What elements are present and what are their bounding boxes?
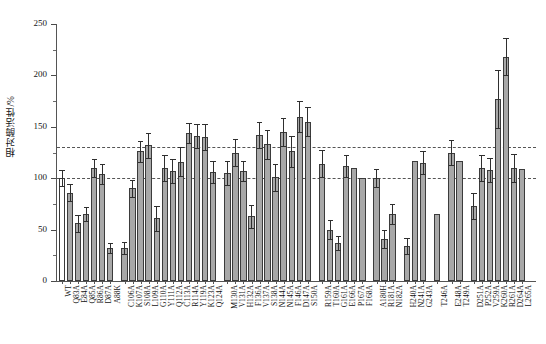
bar [456, 161, 462, 281]
x-axis-tick-mark [498, 281, 499, 284]
error-bar-cap [84, 221, 89, 222]
error-bar [132, 180, 133, 196]
x-axis-tick-mark [197, 281, 198, 284]
error-bar [291, 136, 292, 167]
bar [351, 168, 357, 281]
error-bar [267, 130, 268, 159]
bar [67, 193, 73, 281]
bar [511, 168, 517, 281]
error-bar-cap [84, 207, 89, 208]
error-bar-cap [297, 101, 302, 102]
x-axis-tick-mark [260, 281, 261, 284]
y-axis-tick-label: 100 [34, 172, 48, 183]
error-bar-cap [249, 228, 254, 229]
x-axis-tick-mark [514, 281, 515, 284]
error-bar [407, 238, 408, 254]
x-axis-tick-mark [308, 281, 309, 284]
bar-group [66, 24, 74, 281]
error-bar-cap [108, 253, 113, 254]
plot-area [57, 24, 536, 281]
x-axis-tick-mark [181, 281, 182, 284]
bar [359, 178, 365, 281]
bar-group [486, 24, 494, 281]
error-bar-cap [178, 176, 183, 177]
error-bar-cap [344, 177, 349, 178]
x-axis-tick-mark [284, 281, 285, 284]
bar-group [223, 24, 231, 281]
error-bar-cap [479, 155, 484, 156]
error-bar-cap [130, 197, 135, 198]
bar-group [518, 24, 526, 281]
bar [434, 214, 440, 281]
error-bar-cap [100, 184, 105, 185]
error-bar-cap [122, 242, 127, 243]
error-bar-cap [374, 187, 379, 188]
x-axis-tick-mark [322, 281, 323, 284]
error-bar-cap [281, 146, 286, 147]
error-bar-cap [471, 193, 476, 194]
error-bar-cap [92, 177, 97, 178]
bar-group [239, 24, 247, 281]
error-bar-cap [390, 224, 395, 225]
error-bar-cap [154, 231, 159, 232]
error-bar-cap [225, 185, 230, 186]
error-bar [299, 101, 300, 132]
error-bar [275, 164, 276, 191]
error-bar-cap [374, 169, 379, 170]
error-bar [78, 215, 79, 231]
bar [503, 57, 509, 281]
x-axis-tick-mark [362, 281, 363, 284]
bar-group [145, 24, 153, 281]
bar-group [350, 24, 358, 281]
x-axis-tick-mark [292, 281, 293, 284]
error-bar [235, 139, 236, 166]
error-bar-cap [138, 141, 143, 142]
error-bar [384, 230, 385, 249]
x-axis-tick-mark [70, 281, 71, 284]
error-bar [243, 161, 244, 182]
bar [202, 137, 208, 281]
error-bar-cap [487, 158, 492, 159]
x-axis-tick-label: L265A [525, 285, 533, 343]
error-bar [62, 170, 63, 186]
error-bar-cap [319, 150, 324, 151]
error-bar [330, 220, 331, 239]
bar-group [74, 24, 82, 281]
bar [479, 168, 485, 281]
bar [186, 133, 192, 281]
bar-group [304, 24, 312, 281]
bar [162, 168, 168, 281]
x-axis-tick-mark [157, 281, 158, 284]
error-bar [189, 123, 190, 144]
error-bar-cap [92, 159, 97, 160]
error-bar-cap [202, 124, 207, 125]
error-bar-cap [289, 136, 294, 137]
error-bar-cap [130, 180, 135, 181]
bar-group [248, 24, 256, 281]
bar-group [98, 24, 106, 281]
x-axis-labels: WTQ83AE84AQ85AR86AD87AA88KC106AK107AS108… [57, 285, 536, 344]
error-bar-cap [336, 236, 341, 237]
bar [297, 117, 303, 281]
error-bar [307, 107, 308, 136]
bar-group [326, 24, 334, 281]
bar-group [381, 24, 389, 281]
y-axis-tick-label: 0 [43, 275, 48, 286]
error-bar-cap [289, 167, 294, 168]
bar [272, 177, 278, 281]
bar [256, 135, 262, 281]
error-bar [102, 164, 103, 185]
error-bar-cap [265, 130, 270, 131]
bar [194, 136, 200, 281]
y-axis-tick-label: 50 [38, 224, 47, 235]
x-axis-tick-label: A88K [114, 285, 122, 343]
bar [99, 174, 105, 281]
x-axis-tick-label: S150A [311, 285, 319, 343]
error-bar-cap [382, 230, 387, 231]
error-bar [514, 154, 515, 183]
x-axis-tick-mark [482, 281, 483, 284]
error-bar [164, 155, 165, 182]
error-bar-cap [225, 161, 230, 162]
error-bar [498, 70, 499, 128]
error-bar-cap [146, 158, 151, 159]
